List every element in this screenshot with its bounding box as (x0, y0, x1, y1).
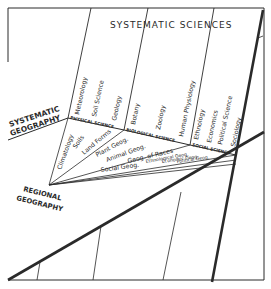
geography-sciences-diagram: SYSTEMATIC SCIENCES SYSTEMATIC GEOGRAPHY… (0, 0, 271, 289)
frame-top-left (8, 8, 264, 62)
lower-divider-1 (37, 262, 40, 280)
svg-text:Social Geog.: Social Geog. (100, 161, 139, 174)
lower-divider-2 (93, 226, 101, 280)
svg-text:Zoology: Zoology (154, 104, 167, 130)
title: SYSTEMATIC SCIENCES (110, 20, 232, 30)
svg-text:Soil Science: Soil Science (90, 79, 105, 117)
group-biological: BIOLOGICAL SCIENCE (126, 127, 176, 143)
svg-text:Geology: Geology (110, 94, 123, 121)
svg-text:Botany: Botany (129, 102, 141, 125)
svg-text:Ethnology: Ethnology (192, 108, 206, 140)
lower-divider-3 (163, 192, 181, 280)
group-physical: PHYSICAL SCIENCE (70, 115, 115, 129)
